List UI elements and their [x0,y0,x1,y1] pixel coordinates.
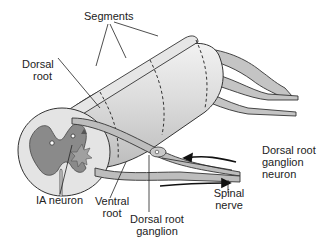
label-dorsal-root-ganglion-line2: ganglion [122,225,192,237]
label-drg-neuron-line3: neuron [262,168,296,180]
label-drg-neuron-line1: Dorsal root [262,144,316,156]
label-ventral-root-line1: Ventral [92,195,132,207]
spinal-cord-diagram: Segments Dorsal root IA neuron Ventral r… [0,0,324,246]
label-dorsal-root-ganglion-line1: Dorsal root [122,213,192,225]
label-dorsal-root-line2: root [22,70,52,82]
label-spinal-nerve-line2: nerve [212,199,246,211]
label-segments: Segments [84,10,134,22]
label-ia-neuron: IA neuron [36,194,83,206]
label-drg-neuron-line2: ganglion [262,156,304,168]
label-spinal-nerve-line1: Spinal [212,187,246,199]
label-dorsal-root-line1: Dorsal [22,58,52,70]
spinal-cord-illustration [0,0,324,246]
